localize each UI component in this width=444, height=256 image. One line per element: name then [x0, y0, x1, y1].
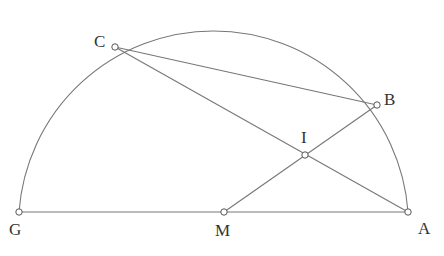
geometry-diagram: C B I G M A [0, 0, 444, 256]
label-c: C [94, 32, 105, 51]
label-b: B [384, 90, 395, 109]
point-m [221, 209, 227, 215]
point-i [302, 152, 308, 158]
label-m: M [215, 221, 230, 240]
point-c [112, 44, 118, 50]
label-g: G [9, 220, 21, 239]
point-a [405, 209, 411, 215]
semicircle-arc [19, 31, 408, 212]
point-g [16, 209, 22, 215]
segment-ca [115, 47, 408, 212]
label-i: I [301, 128, 307, 147]
point-b [374, 102, 380, 108]
label-a: A [418, 219, 431, 238]
